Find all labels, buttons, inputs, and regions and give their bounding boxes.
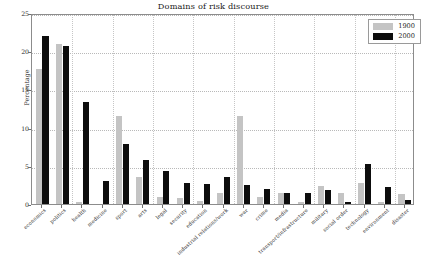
x-tick-label-medicine: medicine [85,207,107,228]
bar-group [334,15,354,204]
bar-2000-economics [42,36,48,204]
legend-label: 2000 [398,33,415,40]
bar-2000-military [325,190,331,204]
bar-1900-education [197,201,203,204]
bar-2000-social-order [345,202,351,204]
x-tick-label-politics: politics [49,207,68,225]
bar-1900-arts [136,177,142,204]
bar-group [173,15,193,204]
y-tick-mark [28,205,31,206]
bar-1900-sport [116,116,122,204]
bar-2000-legal [163,171,169,204]
bar-1900-military [318,186,324,204]
bar-2000-media [284,193,290,204]
x-tick-label-war: war [237,207,249,218]
bar-group [133,15,153,204]
bar-group [213,15,233,204]
bar-1900-legal [157,197,163,204]
bar-1900-environment [378,202,384,204]
bar-group [254,15,274,204]
bar-2000-sport [123,144,129,204]
bar-group [294,15,314,204]
bar-group [153,15,173,204]
bar-2000-arts [143,160,149,204]
x-tick-label-economics: economics [22,207,47,230]
legend-item: 1900 [373,23,415,30]
bar-1900-technology [358,183,364,204]
bar-group [32,15,52,204]
bar-1900-security [177,198,183,204]
bar-group [92,15,112,204]
x-tick-label-sport: sport [113,207,127,221]
chart-legend: 19002000 [368,19,421,44]
bar-2000-politics [63,46,69,204]
x-tick-label-legal: legal [154,207,168,220]
bar-1900-transport-infrastructure [298,202,304,204]
bar-group [314,15,334,204]
bar-2000-education [204,184,210,204]
x-tick-label-crime: crime [253,207,268,222]
bar-1900-politics [56,44,62,204]
bar-1900-disaster [398,194,404,204]
bar-1900-social-order [338,193,344,204]
bar-1900-media [278,193,284,204]
bar-2000-health [83,102,89,204]
bar-group [234,15,254,204]
chart-figure: Domains of risk discourse Percentage 051… [0,0,427,279]
x-tick-label-disaster: disaster [390,207,410,226]
x-tick-label-health: health [71,207,88,223]
bar-group [193,15,213,204]
bar-1900-industrial-relations-work [217,193,223,204]
bar-1900-war [237,116,243,204]
bar-group [72,15,92,204]
legend-item: 2000 [373,33,415,40]
x-tick-label-arts: arts [136,207,148,219]
bar-2000-industrial-relations-work [224,177,230,205]
x-tick-label-media: media [273,207,289,222]
bar-1900-crime [257,197,263,204]
plot-area [31,14,414,205]
bar-group [113,15,133,204]
bar-1900-health [76,202,82,204]
bar-group [274,15,294,204]
bar-1900-economics [36,69,42,204]
bar-2000-war [244,185,250,204]
legend-label: 1900 [398,23,415,30]
chart-title: Domains of risk discourse [0,1,427,11]
bar-2000-crime [264,189,270,204]
bar-2000-medicine [103,181,109,204]
legend-swatch-icon [373,33,393,40]
bar-2000-transport-infrastructure [305,193,311,204]
bar-2000-environment [385,187,391,204]
bar-group [52,15,72,204]
bar-2000-technology [365,164,371,204]
legend-swatch-icon [373,23,393,30]
bar-2000-disaster [405,200,411,204]
bar-2000-security [184,183,190,204]
